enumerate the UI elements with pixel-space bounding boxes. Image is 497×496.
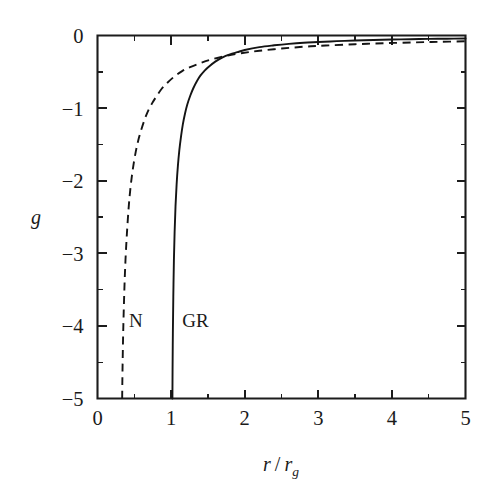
curve-label-gr: GR bbox=[182, 310, 209, 331]
curve-label-n: N bbox=[129, 310, 143, 331]
x-axis-label: r/rg bbox=[263, 453, 299, 479]
x-tick-label: 5 bbox=[460, 407, 470, 429]
y-axis-tick-labels: 0−1−2−3−4−5 bbox=[62, 25, 84, 410]
y-axis-minor-ticks bbox=[98, 72, 466, 362]
x-tick-label: 0 bbox=[92, 407, 102, 429]
x-axis-label-denominator: r bbox=[284, 453, 292, 475]
chart-canvas: 012345 0−1−2−3−4−5 NGR g r/rg bbox=[0, 0, 497, 496]
y-tick-label: 0 bbox=[73, 25, 83, 47]
axes-frame bbox=[98, 36, 466, 399]
data-curves bbox=[122, 38, 465, 398]
x-tick-label: 4 bbox=[387, 407, 397, 429]
x-tick-label: 2 bbox=[240, 407, 250, 429]
plot-frame bbox=[98, 36, 466, 399]
y-tick-label: −4 bbox=[62, 315, 84, 337]
curve-annotations: NGR bbox=[129, 310, 209, 331]
figure-container: 012345 0−1−2−3−4−5 NGR g r/rg bbox=[0, 0, 497, 496]
y-tick-label: −5 bbox=[62, 388, 84, 410]
x-axis-major-ticks bbox=[171, 36, 392, 399]
x-axis-label-text: r/rg bbox=[263, 453, 299, 479]
x-axis-label-numerator: r bbox=[263, 453, 271, 475]
y-axis-major-ticks bbox=[98, 108, 466, 326]
x-axis-tick-labels: 012345 bbox=[92, 407, 470, 429]
y-tick-label: −3 bbox=[62, 243, 84, 265]
x-axis-minor-ticks bbox=[134, 36, 428, 399]
x-axis-label-subscript: g bbox=[292, 464, 299, 479]
y-axis-label: g bbox=[31, 206, 41, 229]
x-tick-label: 3 bbox=[313, 407, 323, 429]
x-tick-label: 1 bbox=[166, 407, 176, 429]
y-tick-label: −1 bbox=[62, 98, 84, 120]
x-axis-label-slash: / bbox=[275, 453, 281, 475]
y-tick-label: −2 bbox=[62, 170, 84, 192]
curve-general-relativity bbox=[172, 38, 465, 398]
